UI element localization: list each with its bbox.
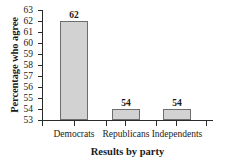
bar-independents: 54	[163, 109, 191, 120]
y-tick-label-58: 58	[24, 65, 34, 66]
y-tick-61: 61	[38, 32, 42, 33]
y-tick-label-57: 57	[24, 76, 34, 77]
x-category-label-democrats: Democrats	[53, 129, 94, 139]
y-tick-63: 63	[38, 10, 42, 11]
x-tick-center-democrats	[74, 121, 75, 126]
x-category-label-independents: Independents	[152, 129, 203, 139]
y-tick-label-59: 59	[24, 54, 34, 55]
y-tick-59: 59	[38, 54, 42, 55]
plot-area: 63 62 61 60 59 58 57 56 55 54 53 62 54 5…	[42, 10, 213, 120]
x-category-label-republicans: Republicans	[103, 129, 150, 139]
x-tick-boundary-2	[156, 121, 157, 126]
bar-democrats: 62	[60, 21, 88, 120]
y-tick-label-54: 54	[24, 109, 34, 110]
y-tick-label-63: 63	[24, 10, 34, 11]
x-tick-center-independents	[176, 121, 177, 126]
x-tick-boundary-1	[106, 121, 107, 126]
bar-republicans: 54	[112, 109, 140, 120]
x-tick-center-republicans	[125, 121, 126, 126]
x-tick-boundary-0	[42, 121, 43, 126]
bar-value-republicans: 54	[121, 98, 131, 108]
y-tick-label-60: 60	[24, 43, 34, 44]
y-tick-label-62: 62	[24, 21, 34, 22]
y-tick-62: 62	[38, 21, 42, 22]
y-tick-label-55: 55	[24, 98, 34, 99]
y-tick-label-56: 56	[24, 87, 34, 88]
x-tick-boundary-3	[206, 121, 207, 126]
x-axis-title: Results by party	[42, 146, 213, 157]
y-tick-label-53: 53	[24, 120, 34, 121]
y-tick-57: 57	[38, 76, 42, 77]
y-tick-56: 56	[38, 87, 42, 88]
y-axis-title: Percentage who agree	[9, 5, 23, 125]
bar-value-democrats: 62	[69, 10, 79, 20]
y-tick-60: 60	[38, 43, 42, 44]
y-tick-label-61: 61	[24, 32, 34, 33]
bar-chart: Percentage who agree 63 62 61 60 59 58 5…	[0, 0, 225, 168]
bar-value-independents: 54	[172, 98, 182, 108]
y-tick-55: 55	[38, 98, 42, 99]
x-axis-line	[42, 120, 213, 121]
y-tick-54: 54	[38, 109, 42, 110]
y-tick-58: 58	[38, 65, 42, 66]
y-axis-line	[42, 10, 43, 120]
